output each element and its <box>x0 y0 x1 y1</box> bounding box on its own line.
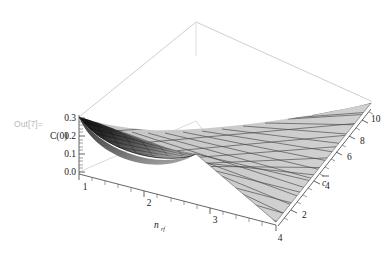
z-tick-label-0: 0.0 <box>64 167 76 177</box>
x-tick-label-3: 4 <box>278 233 283 243</box>
output-cell: Out[7]= <box>0 0 387 269</box>
surface-sheet <box>79 103 371 253</box>
surface-plot-graphic[interactable]: 0.0 0.1 0.2 0.3 C(0) <box>0 0 387 269</box>
x-axis-title: n rf <box>154 220 166 232</box>
x-tick-label-2: 3 <box>213 215 218 225</box>
box-edge-top-right <box>196 22 371 101</box>
x-axis-title-base: n <box>154 220 159 230</box>
x-axis-title-subscript: rf <box>161 226 166 232</box>
x-tick-label-1: 2 <box>147 198 152 208</box>
z-tick-label-1: 0.1 <box>64 149 76 159</box>
y-tick-label-2: 6 <box>347 152 352 162</box>
y-tick-label-0: 2 <box>302 210 307 220</box>
box-edge-top-left <box>79 22 196 117</box>
plot-bounding-box <box>79 22 371 117</box>
x-tick-label-0: 1 <box>83 182 88 192</box>
z-axis-title: C(0) <box>50 131 67 142</box>
z-axis-minor-ticks <box>79 122 83 168</box>
z-tick-label-3: 0.3 <box>64 113 76 123</box>
z-axis: 0.0 0.1 0.2 0.3 C(0) <box>50 113 85 177</box>
y-tick-label-4: 10 <box>371 114 381 124</box>
y-tick-label-3: 8 <box>360 136 365 146</box>
